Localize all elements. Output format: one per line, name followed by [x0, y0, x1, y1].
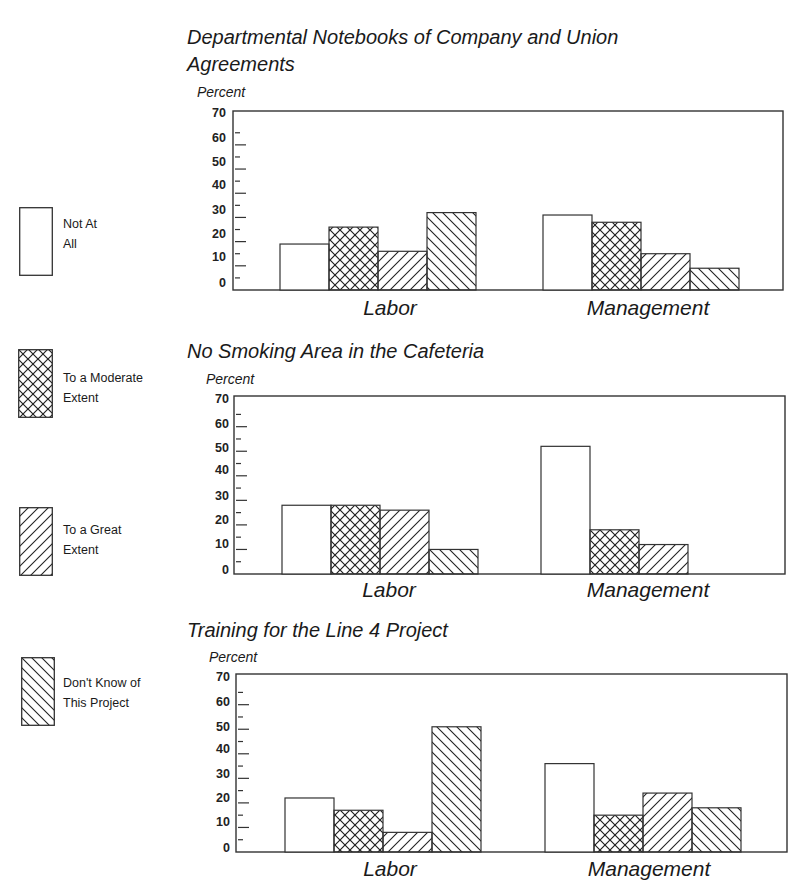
- bar-labor-moderate: [334, 810, 383, 852]
- plot-area: [0, 0, 811, 894]
- bar-labor-not-at-all: [285, 798, 334, 852]
- bar-management-not-at-all: [545, 764, 594, 852]
- bar-management-moderate: [594, 815, 643, 852]
- bar-management-dont-know: [692, 808, 741, 852]
- bar-labor-dont-know: [432, 727, 481, 852]
- bar-labor-great: [383, 832, 432, 852]
- group-label-management: Management: [588, 857, 711, 881]
- group-label-labor: Labor: [363, 857, 417, 881]
- bar-management-great: [643, 793, 692, 852]
